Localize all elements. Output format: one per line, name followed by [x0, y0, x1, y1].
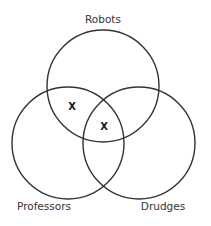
triple-intersection-mark: X [100, 121, 108, 132]
professors-label: Professors [17, 200, 71, 212]
drudges-circle [83, 87, 195, 199]
robots-label: Robots [85, 13, 121, 25]
venn-diagram: Robots Professors Drudges X X [0, 0, 211, 226]
drudges-label: Drudges [141, 200, 185, 212]
robots-professors-mark: X [68, 101, 76, 112]
